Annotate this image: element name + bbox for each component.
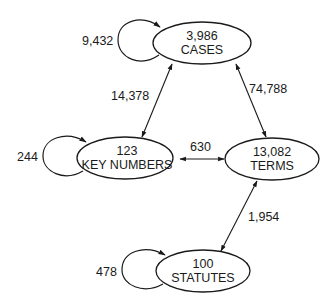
edge-key-numbers-terms: 630 — [180, 140, 224, 159]
node-cases: 3,986 CASES — [153, 22, 251, 64]
node-cases-label: CASES — [181, 43, 223, 57]
self-loop-key-numbers-label: 244 — [17, 150, 38, 164]
edge-cases-key-numbers-label: 14,378 — [111, 89, 149, 103]
edge-cases-key-numbers: 14,378 — [111, 64, 172, 137]
node-key-numbers-count: 123 — [117, 144, 138, 158]
node-terms-label: TERMS — [250, 159, 294, 173]
edge-key-numbers-terms-label: 630 — [190, 140, 211, 154]
node-key-numbers-label: KEY NUMBERS — [82, 158, 173, 172]
edge-cases-terms: 74,788 — [236, 64, 287, 137]
edge-terms-statutes: 1,954 — [221, 181, 279, 251]
node-statutes: 100 STATUTES — [156, 250, 250, 292]
self-loop-statutes-label: 478 — [96, 265, 117, 279]
node-key-numbers: 123 KEY NUMBERS — [77, 137, 173, 179]
edge-terms-statutes-label: 1,954 — [248, 210, 279, 224]
edge-cases-terms-label: 74,788 — [249, 82, 287, 96]
node-cases-count: 3,986 — [186, 29, 217, 43]
node-statutes-label: STATUTES — [171, 271, 234, 285]
self-loop-statutes: 478 — [96, 250, 165, 289]
self-loop-key-numbers: 244 — [17, 136, 86, 175]
node-terms: 13,082 TERMS — [225, 138, 319, 180]
node-terms-count: 13,082 — [253, 145, 291, 159]
self-loop-cases: 9,432 — [82, 20, 160, 61]
node-statutes-count: 100 — [193, 257, 214, 271]
relationship-diagram: 9,432 244 478 14,378 74,788 630 1,954 3,… — [0, 0, 336, 308]
self-loop-cases-label: 9,432 — [82, 34, 113, 48]
